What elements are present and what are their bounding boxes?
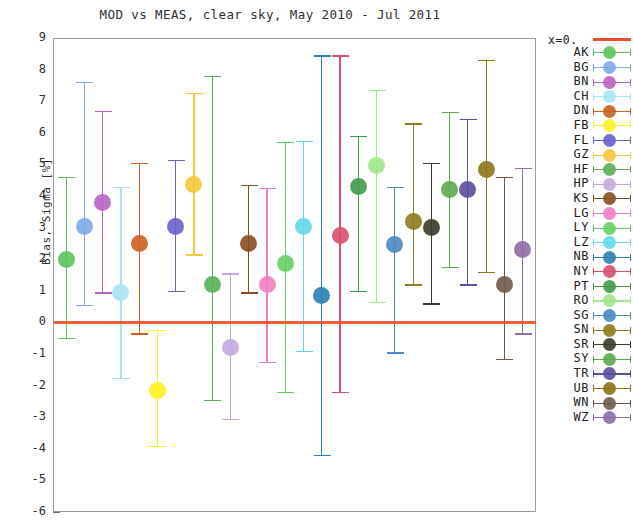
legend-item-ks[interactable]: KS: [545, 192, 633, 207]
error-bar-cap-upper: [442, 112, 459, 113]
legend-swatch: [593, 384, 631, 393]
error-bar: [212, 76, 213, 400]
error-bar-cap-lower: [259, 362, 276, 363]
legend-item-label: SR: [555, 337, 589, 351]
marker-fl[interactable]: [167, 218, 184, 235]
error-bar: [358, 136, 359, 291]
error-bar-cap-upper: [369, 90, 386, 91]
marker-sr[interactable]: [423, 219, 440, 236]
legend-item-wn[interactable]: WN: [545, 396, 633, 411]
legend-item-label: RO: [555, 293, 589, 307]
legend-swatch: [593, 340, 631, 349]
legend-swatch: [593, 413, 631, 422]
error-bar: [504, 177, 505, 359]
y-tick-label: 6: [12, 127, 46, 137]
marker-fb[interactable]: [149, 382, 166, 399]
legend-item-label: HF: [555, 162, 589, 176]
marker-sn[interactable]: [405, 213, 422, 230]
error-bar-cap-lower: [369, 302, 386, 303]
marker-lg[interactable]: [259, 276, 276, 293]
legend-item-tr[interactable]: TR: [545, 367, 633, 382]
chart-root: MOD vs MEAS, clear sky, May 2010 - Jul 2…: [0, 0, 633, 523]
legend-item-label: SG: [555, 308, 589, 322]
y-tick-label: 8: [12, 64, 46, 74]
legend-swatch: [593, 165, 631, 174]
error-bar-cap-upper: [259, 188, 276, 189]
y-tick-label: 0: [12, 316, 46, 326]
error-bar-cap-lower: [332, 392, 349, 393]
error-bar-cap-lower: [149, 446, 166, 447]
marker-pt[interactable]: [350, 178, 367, 195]
legend-item-label: HP: [555, 176, 589, 190]
legend-item-ub[interactable]: UB: [545, 382, 633, 397]
error-bar-cap-lower: [387, 352, 404, 353]
error-bar-cap-upper: [296, 141, 313, 142]
legend-swatch: [593, 282, 631, 291]
legend-item-lg[interactable]: LG: [545, 207, 633, 222]
legend-item-dn[interactable]: DN: [545, 104, 633, 119]
y-tick-label: 3: [12, 222, 46, 232]
error-bar: [303, 141, 304, 351]
error-bar-cap-lower: [277, 392, 294, 393]
y-tick-label: -3: [12, 411, 46, 421]
error-bar-cap-lower: [478, 272, 495, 273]
legend-item-ak[interactable]: AK: [545, 46, 633, 61]
legend-swatch: [593, 296, 631, 305]
legend-item-ny[interactable]: NY: [545, 265, 633, 280]
legend-item-sr[interactable]: SR: [545, 338, 633, 353]
error-bar-cap-lower: [131, 333, 148, 334]
legend-item-ro[interactable]: RO: [545, 294, 633, 309]
marker-wn[interactable]: [496, 276, 513, 293]
legend-item-sy[interactable]: SY: [545, 352, 633, 367]
error-bar-cap-upper: [76, 82, 93, 83]
legend-item-bg[interactable]: BG: [545, 61, 633, 76]
legend-item-fl[interactable]: FL: [545, 134, 633, 149]
legend-item-pt[interactable]: PT: [545, 280, 633, 295]
error-bar: [266, 188, 267, 362]
error-bar-cap-upper: [222, 273, 239, 274]
legend-item-wz[interactable]: WZ: [545, 411, 633, 426]
error-bar-cap-lower: [423, 303, 440, 304]
marker-ak[interactable]: [58, 251, 75, 268]
legend-item-sg[interactable]: SG: [545, 309, 633, 324]
y-tick-label: 9: [12, 32, 46, 42]
error-bar: [84, 82, 85, 305]
y-tick-label: 2: [12, 253, 46, 263]
legend-item-sn[interactable]: SN: [545, 323, 633, 338]
marker-hf[interactable]: [204, 276, 221, 293]
legend-swatch: [593, 253, 631, 262]
marker-lz[interactable]: [295, 218, 312, 235]
legend-item-hp[interactable]: HP: [545, 177, 633, 192]
legend-swatch: [593, 48, 631, 57]
legend-items: AKBGBNCHDNFBFLGZHFHPKSLGLYLZNBNYPTROSGSN…: [545, 46, 633, 425]
legend-swatch: [593, 151, 631, 160]
error-bar: [413, 123, 414, 284]
marker-ub[interactable]: [478, 161, 495, 178]
error-bar-cap-upper: [314, 55, 331, 56]
legend-item-ch[interactable]: CH: [545, 90, 633, 105]
legend-item-nb[interactable]: NB: [545, 250, 633, 265]
legend-item-bn[interactable]: BN: [545, 75, 633, 90]
legend-item-label: SY: [555, 351, 589, 365]
marker-ny[interactable]: [332, 227, 349, 244]
marker-bn[interactable]: [94, 194, 111, 211]
legend-swatch: [593, 326, 631, 335]
y-tick-label: 4: [12, 190, 46, 200]
legend-swatch: [593, 209, 631, 218]
error-bar: [120, 187, 121, 378]
legend-item-lz[interactable]: LZ: [545, 236, 633, 251]
legend-swatch: [593, 399, 631, 408]
legend-item-gz[interactable]: GZ: [545, 148, 633, 163]
plot-area: [53, 38, 536, 512]
legend-item-label: BG: [555, 60, 589, 74]
marker-dn[interactable]: [131, 235, 148, 252]
legend-item-label: DN: [555, 103, 589, 117]
y-tick-mark: [53, 512, 60, 513]
zero-reference-line: [54, 321, 536, 324]
legend-item-label: FL: [555, 133, 589, 147]
marker-bg[interactable]: [76, 218, 93, 235]
error-bar-cap-upper: [149, 330, 166, 331]
legend-item-hf[interactable]: HF: [545, 163, 633, 178]
legend-item-ly[interactable]: LY: [545, 221, 633, 236]
legend-item-fb[interactable]: FB: [545, 119, 633, 134]
